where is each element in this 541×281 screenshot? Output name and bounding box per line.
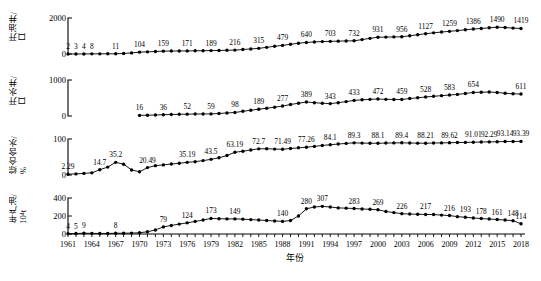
data-point-label: 217 bbox=[420, 202, 431, 211]
data-point-marker bbox=[472, 216, 475, 219]
data-point-marker bbox=[154, 228, 157, 231]
data-point-marker bbox=[360, 141, 363, 144]
data-point-marker bbox=[480, 91, 483, 94]
data-point-marker bbox=[416, 213, 419, 216]
x-axis-tick-label: 1997 bbox=[346, 240, 362, 249]
data-point-marker bbox=[162, 113, 165, 116]
data-point-marker bbox=[289, 219, 292, 222]
data-point-marker bbox=[138, 170, 141, 173]
data-point-marker bbox=[384, 35, 387, 38]
x-axis-tick-label: 1991 bbox=[298, 240, 314, 249]
panel-3-plot: 2.2914.735.220.4935.1943.563.1972.771.49… bbox=[0, 128, 541, 190]
data-point-marker bbox=[456, 215, 459, 218]
data-point-label: 189 bbox=[253, 97, 264, 106]
data-point-label: 63.19 bbox=[227, 140, 244, 149]
data-point-marker bbox=[337, 39, 340, 42]
data-point-marker bbox=[448, 141, 451, 144]
panel-2-y-axis-label-line2: 口 bbox=[19, 96, 28, 105]
data-point-marker bbox=[138, 231, 141, 234]
data-point-marker bbox=[170, 224, 173, 227]
data-point-marker bbox=[257, 107, 260, 110]
data-point-marker bbox=[472, 91, 475, 94]
x-axis-title: 年份 bbox=[286, 252, 304, 263]
data-point-marker bbox=[74, 172, 77, 175]
data-point-label: 654 bbox=[468, 80, 479, 89]
data-point-label: 8 bbox=[90, 42, 94, 51]
data-point-marker bbox=[225, 111, 228, 114]
data-point-marker bbox=[193, 160, 196, 163]
panel-3-ytick-min: 0 bbox=[36, 170, 66, 180]
data-point-label: 1259 bbox=[442, 19, 457, 28]
multi-panel-timeseries-figure: 开油井/口 2000 0 234811104159171189216315479… bbox=[0, 0, 541, 281]
data-point-marker bbox=[273, 147, 276, 150]
data-point-marker bbox=[352, 39, 355, 42]
data-point-marker bbox=[329, 102, 332, 105]
data-point-label: 124 bbox=[182, 211, 193, 220]
data-point-marker bbox=[217, 217, 220, 220]
data-point-marker bbox=[209, 112, 212, 115]
data-point-label: 35.2 bbox=[109, 150, 122, 159]
data-point-marker bbox=[170, 162, 173, 165]
data-point-label: 16 bbox=[136, 103, 144, 112]
data-point-label: 93.39 bbox=[513, 129, 530, 138]
data-point-marker bbox=[495, 25, 498, 28]
data-point-label: 1386 bbox=[466, 17, 481, 26]
data-point-label: 178 bbox=[476, 207, 487, 216]
data-point-label: 2 bbox=[66, 42, 70, 51]
panel-1-ytick-max: 2000 bbox=[36, 13, 66, 23]
data-point-marker bbox=[201, 159, 204, 162]
data-point-label: 72.7 bbox=[252, 137, 265, 146]
data-point-label: 88.1 bbox=[371, 131, 384, 140]
data-point-label: 77.26 bbox=[298, 135, 315, 144]
x-axis-tick-label: 2000 bbox=[370, 240, 386, 249]
data-point-marker bbox=[392, 35, 395, 38]
data-point-marker bbox=[217, 112, 220, 115]
panel-3-y-axis-label-line2: % bbox=[19, 167, 28, 174]
data-point-marker bbox=[464, 28, 467, 31]
x-axis-tick-label: 1970 bbox=[132, 240, 148, 249]
panel-4-y-axis-label-line2: 10⁴t bbox=[19, 210, 28, 224]
data-point-marker bbox=[456, 29, 459, 32]
x-axis-tick-label: 1973 bbox=[155, 240, 171, 249]
data-point-marker bbox=[154, 50, 157, 53]
data-point-marker bbox=[432, 31, 435, 34]
data-point-marker bbox=[186, 49, 189, 52]
data-point-marker bbox=[305, 41, 308, 44]
data-point-marker bbox=[265, 46, 268, 49]
data-point-marker bbox=[376, 97, 379, 100]
data-point-label: 216 bbox=[444, 204, 455, 213]
data-point-marker bbox=[241, 217, 244, 220]
data-point-marker bbox=[146, 166, 149, 169]
data-point-label: 71.49 bbox=[274, 137, 291, 146]
data-point-marker bbox=[241, 150, 244, 153]
data-point-marker bbox=[384, 210, 387, 213]
data-point-marker bbox=[74, 52, 77, 55]
data-point-label: 98 bbox=[231, 100, 239, 109]
data-point-marker bbox=[368, 37, 371, 40]
data-point-marker bbox=[162, 49, 165, 52]
data-point-marker bbox=[344, 142, 347, 145]
data-point-label: 732 bbox=[349, 29, 360, 38]
data-point-label: 52 bbox=[184, 102, 192, 111]
data-point-marker bbox=[313, 101, 316, 104]
data-point-marker bbox=[440, 213, 443, 216]
data-point-marker bbox=[257, 218, 260, 221]
data-point-marker bbox=[281, 220, 284, 223]
data-point-label: 93.14 bbox=[497, 129, 514, 138]
data-point-marker bbox=[480, 140, 483, 143]
x-axis-tick-label: 2015 bbox=[489, 240, 505, 249]
x-axis-tick-label: 1967 bbox=[108, 240, 124, 249]
panel-2-y-axis-label: 开水井/口 bbox=[2, 76, 36, 120]
data-point-label: 36 bbox=[160, 103, 168, 112]
data-point-marker bbox=[329, 40, 332, 43]
panel-oil-wells: 开油井/口 2000 0 234811104159171189216315479… bbox=[0, 0, 541, 64]
data-point-marker bbox=[249, 47, 252, 50]
panel-4-ytick-200: 200 bbox=[34, 211, 66, 221]
data-point-marker bbox=[273, 105, 276, 108]
data-point-marker bbox=[321, 205, 324, 208]
panel-annual-oil-production: 年产油/10⁴t 400 200 0 196119641967197019731… bbox=[0, 190, 541, 281]
data-point-marker bbox=[488, 217, 491, 220]
data-point-marker bbox=[66, 172, 69, 175]
data-point-marker bbox=[82, 231, 85, 234]
data-point-marker bbox=[217, 49, 220, 52]
